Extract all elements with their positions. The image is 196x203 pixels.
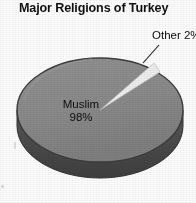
slice-label-muslim: Muslim (55, 98, 107, 111)
other-leader-line (143, 45, 159, 63)
slice-value-muslim: 98% (55, 111, 107, 124)
slice-label-other: Other 2% (152, 29, 196, 42)
pie-chart-figure: Major Religions of Turkey (0, 0, 196, 203)
